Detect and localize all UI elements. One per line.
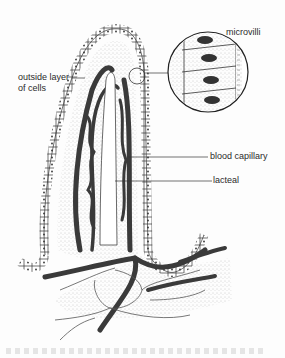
label-lacteal: lacteal <box>213 175 239 186</box>
cropped-caption <box>6 348 266 354</box>
villus-illustration <box>0 0 285 358</box>
label-outside-layer: outside layer <box>18 72 69 83</box>
label-of-cells: of cells <box>18 83 46 94</box>
villus-diagram: microvilli outside layer of cells blood … <box>0 0 285 358</box>
label-microvilli: microvilli <box>226 27 261 38</box>
label-blood-capillary: blood capillary <box>210 151 268 162</box>
